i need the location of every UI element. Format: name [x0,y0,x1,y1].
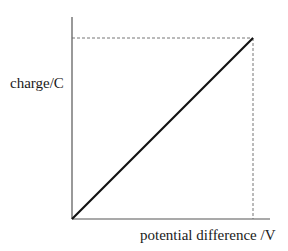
chart-plot [0,0,288,251]
data-line [72,38,253,219]
y-axis-label: charge/C [10,76,64,91]
x-axis-label: potential difference /V [140,228,276,243]
